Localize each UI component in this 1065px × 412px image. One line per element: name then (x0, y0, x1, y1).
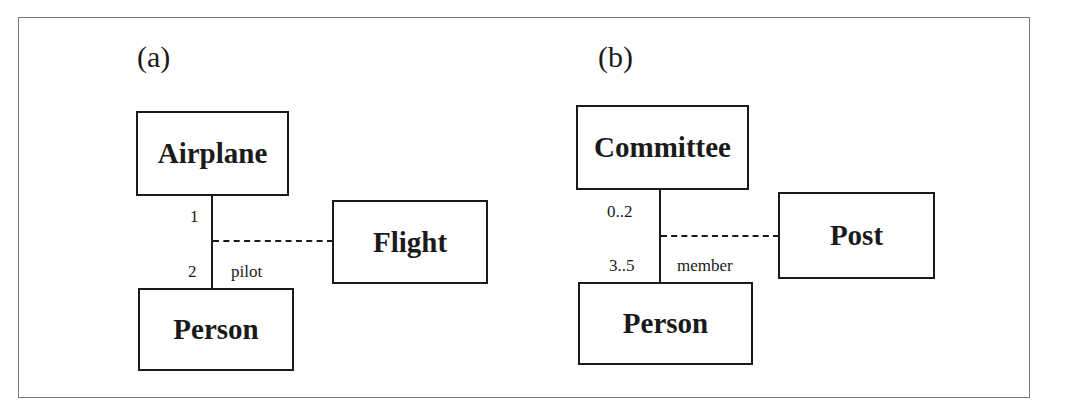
class-name: Airplane (158, 139, 268, 168)
class-person-b[interactable]: Person (578, 282, 753, 365)
class-name: Person (173, 315, 258, 344)
panel-a-label: (a) (137, 42, 170, 72)
multiplicity-bottom: 2 (188, 263, 197, 280)
role-name: pilot (231, 263, 262, 280)
class-flight[interactable]: Flight (332, 200, 488, 284)
class-name: Flight (373, 228, 447, 257)
class-post[interactable]: Post (778, 192, 935, 279)
class-name: Person (623, 309, 708, 338)
association-class-dashed-link (213, 240, 333, 242)
class-airplane[interactable]: Airplane (136, 111, 289, 196)
association-line (211, 195, 213, 289)
multiplicity-top: 0..2 (607, 203, 633, 220)
class-name: Committee (594, 133, 731, 162)
panel-b-label: (b) (598, 42, 633, 72)
multiplicity-top: 1 (190, 208, 199, 225)
class-committee[interactable]: Committee (576, 105, 749, 190)
multiplicity-bottom: 3..5 (609, 257, 635, 274)
association-class-dashed-link (661, 235, 779, 237)
class-person-a[interactable]: Person (138, 288, 294, 371)
class-name: Post (830, 221, 883, 250)
role-name: member (677, 257, 733, 274)
